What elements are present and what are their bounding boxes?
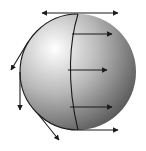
sphere-vector-diagram <box>0 0 146 151</box>
sphere <box>20 14 136 130</box>
